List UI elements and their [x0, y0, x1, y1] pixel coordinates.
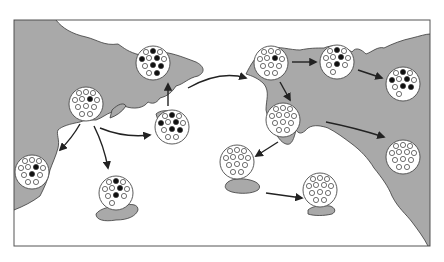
allele-white-dot	[404, 164, 409, 169]
allele-white-dot	[146, 55, 151, 60]
allele-white-dot	[25, 164, 30, 169]
allele-white-dot	[36, 158, 41, 163]
allele-black-dot	[154, 55, 159, 60]
allele-white-dot	[79, 96, 84, 101]
allele-white-dot	[223, 155, 228, 160]
allele-white-dot	[83, 103, 88, 108]
allele-white-dot	[173, 134, 178, 139]
allele-white-dot	[18, 165, 23, 170]
allele-white-dot	[396, 91, 401, 96]
allele-white-dot	[162, 113, 167, 118]
allele-white-dot	[102, 186, 107, 191]
allele-white-dot	[325, 190, 330, 195]
allele-black-dot	[334, 61, 339, 66]
allele-white-dot	[392, 84, 397, 89]
allele-black-dot	[117, 185, 122, 190]
allele-white-dot	[396, 76, 401, 81]
allele-white-dot	[226, 162, 231, 167]
allele-white-dot	[321, 182, 326, 187]
allele-black-dot	[400, 83, 405, 88]
allele-black-dot	[113, 178, 118, 183]
allele-white-dot	[161, 56, 166, 61]
allele-white-dot	[121, 193, 126, 198]
allele-black-dot	[400, 69, 405, 74]
allele-white-dot	[404, 149, 409, 154]
allele-white-dot	[287, 106, 292, 111]
allele-white-dot	[276, 127, 281, 132]
allele-white-dot	[120, 179, 125, 184]
allele-white-dot	[324, 176, 329, 181]
allele-white-dot	[109, 185, 114, 190]
allele-white-dot	[393, 70, 398, 75]
population-east-coast-south	[386, 140, 420, 174]
population-east-island-1	[220, 145, 254, 179]
allele-white-dot	[83, 89, 88, 94]
allele-white-dot	[408, 157, 413, 162]
allele-black-dot	[177, 127, 182, 132]
allele-black-dot	[272, 55, 277, 60]
allele-white-dot	[272, 70, 277, 75]
allele-black-dot	[150, 62, 155, 67]
allele-white-dot	[22, 158, 27, 163]
allele-black-dot	[169, 126, 174, 131]
allele-white-dot	[40, 165, 45, 170]
allele-white-dot	[411, 77, 416, 82]
allele-white-dot	[291, 113, 296, 118]
allele-white-dot	[407, 70, 412, 75]
allele-white-dot	[275, 49, 280, 54]
allele-white-dot	[180, 120, 185, 125]
allele-white-dot	[21, 172, 26, 177]
allele-white-dot	[393, 143, 398, 148]
allele-white-dot	[323, 55, 328, 60]
allele-white-dot	[264, 55, 269, 60]
population-east-island-2	[303, 173, 337, 207]
allele-white-dot	[106, 179, 111, 184]
allele-white-dot	[176, 113, 181, 118]
allele-black-dot	[404, 76, 409, 81]
allele-white-dot	[245, 155, 250, 160]
allele-black-dot	[338, 54, 343, 59]
allele-white-dot	[313, 197, 318, 202]
allele-white-dot	[142, 63, 147, 68]
allele-white-dot	[276, 112, 281, 117]
allele-white-dot	[309, 190, 314, 195]
allele-white-dot	[37, 172, 42, 177]
allele-white-dot	[264, 70, 269, 75]
allele-white-dot	[230, 169, 235, 174]
allele-white-dot	[321, 197, 326, 202]
allele-white-dot	[396, 164, 401, 169]
allele-white-dot	[280, 105, 285, 110]
allele-black-dot	[87, 96, 92, 101]
allele-white-dot	[234, 147, 239, 152]
population-east-landing	[254, 46, 288, 80]
allele-white-dot	[72, 97, 77, 102]
allele-white-dot	[157, 49, 162, 54]
allele-black-dot	[334, 47, 339, 52]
allele-black-dot	[33, 164, 38, 169]
allele-white-dot	[238, 169, 243, 174]
allele-white-dot	[261, 49, 266, 54]
allele-white-dot	[280, 119, 285, 124]
population-central-island	[155, 110, 189, 144]
allele-white-dot	[268, 48, 273, 53]
allele-white-dot	[242, 162, 247, 167]
allele-white-dot	[105, 193, 110, 198]
allele-white-dot	[396, 149, 401, 154]
allele-white-dot	[288, 120, 293, 125]
allele-white-dot	[317, 189, 322, 194]
allele-white-dot	[94, 97, 99, 102]
allele-black-dot	[173, 119, 178, 124]
allele-black-dot	[139, 56, 144, 61]
allele-black-dot	[408, 84, 413, 89]
allele-white-dot	[161, 127, 166, 132]
allele-black-dot	[158, 120, 163, 125]
allele-white-dot	[79, 111, 84, 116]
allele-white-dot	[345, 55, 350, 60]
allele-white-dot	[230, 154, 235, 159]
allele-white-dot	[124, 186, 129, 191]
allele-white-dot	[29, 157, 34, 162]
allele-white-dot	[260, 63, 265, 68]
allele-white-dot	[87, 111, 92, 116]
allele-white-dot	[342, 62, 347, 67]
allele-white-dot	[227, 148, 232, 153]
